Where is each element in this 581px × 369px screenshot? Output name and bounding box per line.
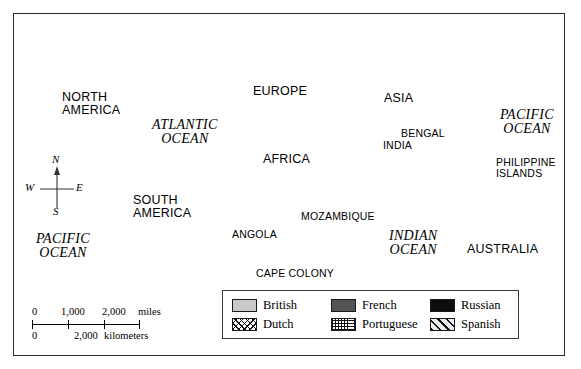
legend-label-french: French bbox=[362, 299, 397, 312]
legend-swatch-spanish bbox=[430, 318, 455, 331]
scale-tick-1 bbox=[68, 320, 69, 329]
legend-item-russian[interactable]: Russian bbox=[421, 299, 520, 312]
legend-item-british[interactable]: British bbox=[223, 299, 322, 312]
map-legend: British French Russian Dutch Portuguese … bbox=[222, 290, 519, 339]
scale-kilometers-labels: 0 2,000 kilometers bbox=[32, 330, 182, 343]
scale-axis-line bbox=[32, 324, 140, 325]
scale-tick-axis bbox=[32, 320, 140, 329]
legend-label-british: British bbox=[263, 299, 297, 312]
legend-swatch-russian bbox=[430, 299, 455, 312]
scale-miles-labels: 0 1,000 2,000 miles bbox=[32, 306, 182, 319]
scale-km-2000: 2,000 bbox=[74, 330, 98, 341]
compass-rose: N W E S bbox=[28, 158, 86, 220]
legend-label-russian: Russian bbox=[461, 299, 501, 312]
scale-km-0: 0 bbox=[32, 330, 37, 341]
scale-tick-2 bbox=[104, 320, 105, 329]
legend-item-french[interactable]: French bbox=[322, 299, 421, 312]
legend-swatch-dutch bbox=[232, 318, 257, 331]
legend-swatch-portuguese bbox=[331, 318, 356, 331]
scale-tick-3 bbox=[139, 320, 140, 329]
scale-miles-2000: 2,000 bbox=[102, 306, 126, 317]
historical-world-map-figure: NORTH AMERICA SOUTH AMERICA EUROPE ASIA … bbox=[0, 0, 581, 369]
legend-item-spanish[interactable]: Spanish bbox=[421, 318, 520, 331]
scale-bar: 0 1,000 2,000 miles 0 2,000 kilometers bbox=[32, 306, 182, 343]
scale-km-unit: kilometers bbox=[104, 330, 148, 341]
legend-label-portuguese: Portuguese bbox=[362, 318, 418, 331]
legend-item-dutch[interactable]: Dutch bbox=[223, 318, 322, 331]
scale-miles-0: 0 bbox=[32, 306, 37, 317]
legend-item-portuguese[interactable]: Portuguese bbox=[322, 318, 421, 331]
compass-icon bbox=[28, 158, 86, 220]
legend-label-spanish: Spanish bbox=[461, 318, 501, 331]
legend-swatch-french bbox=[331, 299, 356, 312]
legend-label-dutch: Dutch bbox=[263, 318, 294, 331]
scale-tick-0 bbox=[32, 320, 33, 329]
legend-grid: British French Russian Dutch Portuguese … bbox=[223, 296, 518, 334]
legend-swatch-british bbox=[232, 299, 257, 312]
scale-miles-unit: miles bbox=[138, 306, 161, 317]
scale-miles-1000: 1,000 bbox=[61, 306, 85, 317]
